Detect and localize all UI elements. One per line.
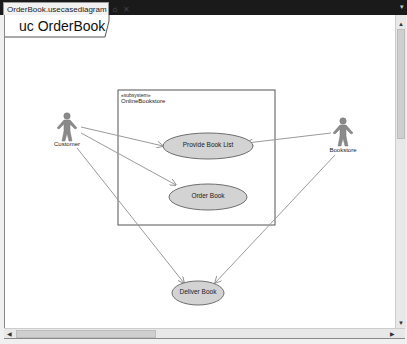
vertical-scroll-thumb[interactable] <box>397 29 405 139</box>
tab-title: OrderBook.usecasediagram <box>7 5 107 14</box>
actor-label-bookstore: Bookstore <box>321 147 365 153</box>
assoc-customer-provide <box>81 127 163 146</box>
use-case-label-provide-book-list: Provide Book List <box>163 141 253 148</box>
vertical-scrollbar[interactable]: ▲ ▼ <box>395 15 406 328</box>
diagram-canvas[interactable]: uc OrderBook «subsystem» OnlineBookstore… <box>4 15 396 328</box>
pin-icon[interactable]: ⌂ <box>113 5 118 14</box>
actor-customer-figure[interactable] <box>57 113 77 141</box>
scroll-up-icon[interactable]: ▲ <box>396 19 406 29</box>
horizontal-scroll-thumb[interactable] <box>16 330 156 338</box>
subsystem-name: OnlineBookstore <box>121 98 165 104</box>
actor-bookstore-figure[interactable] <box>333 118 353 146</box>
tab-menu-dropdown-icon[interactable]: ▾ <box>400 3 404 11</box>
scroll-down-icon[interactable]: ▼ <box>396 318 406 328</box>
assoc-customer-deliver <box>77 148 184 283</box>
window-bottom-border <box>4 338 405 339</box>
use-case-label-order-book: Order Book <box>169 192 247 199</box>
document-tab-bar: OrderBook.usecasediagram ⌂ ✕ ▾ <box>0 0 407 15</box>
use-case-label-deliver-book: Deliver Book <box>172 288 224 295</box>
assoc-bookstore-provide <box>247 133 331 143</box>
close-icon[interactable]: ✕ <box>123 5 130 14</box>
use-case-diagram <box>5 15 396 328</box>
actor-label-customer: Customer <box>45 141 89 147</box>
document-tab[interactable]: OrderBook.usecasediagram ⌂ ✕ <box>3 2 109 15</box>
assoc-customer-order <box>81 133 176 185</box>
diagram-frame-label: uc OrderBook <box>5 15 108 37</box>
